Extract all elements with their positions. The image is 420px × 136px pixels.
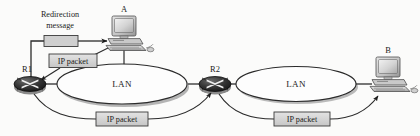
ip-packet-label-r1-to-r2: IP packet bbox=[107, 115, 138, 124]
lan-right-label: LAN bbox=[286, 79, 306, 89]
host-a-mouse bbox=[147, 47, 154, 51]
network-diagram: LAN LAN Redirection message IP packet IP… bbox=[0, 0, 420, 136]
redirection-message-box bbox=[44, 36, 78, 47]
host-b-keyboard bbox=[370, 86, 410, 91]
host-b-system-unit bbox=[372, 80, 407, 85]
host-b-label: B bbox=[385, 45, 391, 55]
ip-packet-label-a-to-r1: IP packet bbox=[58, 57, 89, 66]
ip-packet-label-r2-to-b: IP packet bbox=[287, 115, 318, 124]
redirection-caption-line1: Redirection bbox=[41, 10, 79, 19]
host-b-screen bbox=[379, 60, 398, 74]
redirection-caption-line2: message bbox=[46, 21, 74, 30]
router-r1-label: R1 bbox=[22, 64, 32, 74]
host-a-keyboard bbox=[106, 45, 146, 50]
host-b-mouse bbox=[411, 88, 418, 92]
host-a-label: A bbox=[121, 4, 128, 14]
host-a-screen bbox=[115, 19, 134, 33]
router-r2-label: R2 bbox=[210, 64, 220, 74]
lan-left-label: LAN bbox=[112, 79, 132, 89]
diagram-canvas: LAN LAN Redirection message IP packet IP… bbox=[0, 0, 420, 136]
host-a-system-unit bbox=[108, 39, 143, 44]
